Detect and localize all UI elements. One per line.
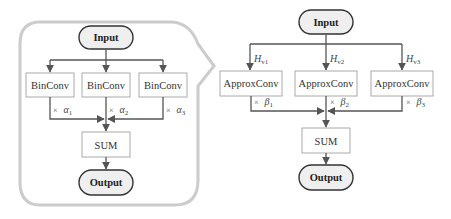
alpha-2-label: × α2 [109, 99, 129, 117]
left-diagram: Input BinConv BinConv BinConv × α1 × α2 [26, 26, 187, 195]
left-branch-3: BinConv [139, 73, 187, 97]
left-output-label: Output [90, 177, 123, 188]
right-sum-label: SUM [315, 136, 338, 147]
right-input-label: Input [313, 17, 339, 28]
left-sum-node: SUM [82, 132, 130, 157]
left-output-node: Output [79, 170, 133, 195]
hv1-label: Hv1 [253, 53, 269, 66]
alpha-3-label: × α3 [166, 99, 186, 117]
alpha-1-label: × α1 [53, 99, 73, 117]
right-branch-3: ApproxConv [371, 71, 433, 96]
approxconv-1-label: ApproxConv [224, 78, 280, 89]
right-input-node: Input [299, 10, 353, 34]
hv3-label: Hv3 [405, 53, 421, 66]
right-output-label: Output [310, 172, 343, 183]
right-branch-1: ApproxConv [220, 71, 282, 96]
left-sum-label: SUM [95, 140, 118, 151]
binconv-3-label: BinConv [144, 80, 183, 91]
right-diagram: Input Hv1 Hv2 Hv3 ApproxConv ApproxConv [220, 10, 433, 190]
approxconv-3-label: ApproxConv [375, 78, 431, 89]
hv2-label: Hv2 [329, 53, 345, 66]
left-branch-2: BinConv [82, 73, 130, 97]
diagram-canvas: Input BinConv BinConv BinConv × α1 × α2 [0, 0, 451, 219]
binconv-2-label: BinConv [87, 80, 126, 91]
right-sum-node: SUM [302, 128, 350, 153]
right-branch-2: ApproxConv [295, 71, 357, 96]
left-branch-1: BinConv [26, 73, 74, 97]
binconv-1-label: BinConv [31, 80, 70, 91]
left-input-node: Input [79, 26, 133, 49]
approxconv-2-label: ApproxConv [299, 78, 355, 89]
left-input-label: Input [93, 32, 119, 43]
right-output-node: Output [299, 165, 353, 190]
